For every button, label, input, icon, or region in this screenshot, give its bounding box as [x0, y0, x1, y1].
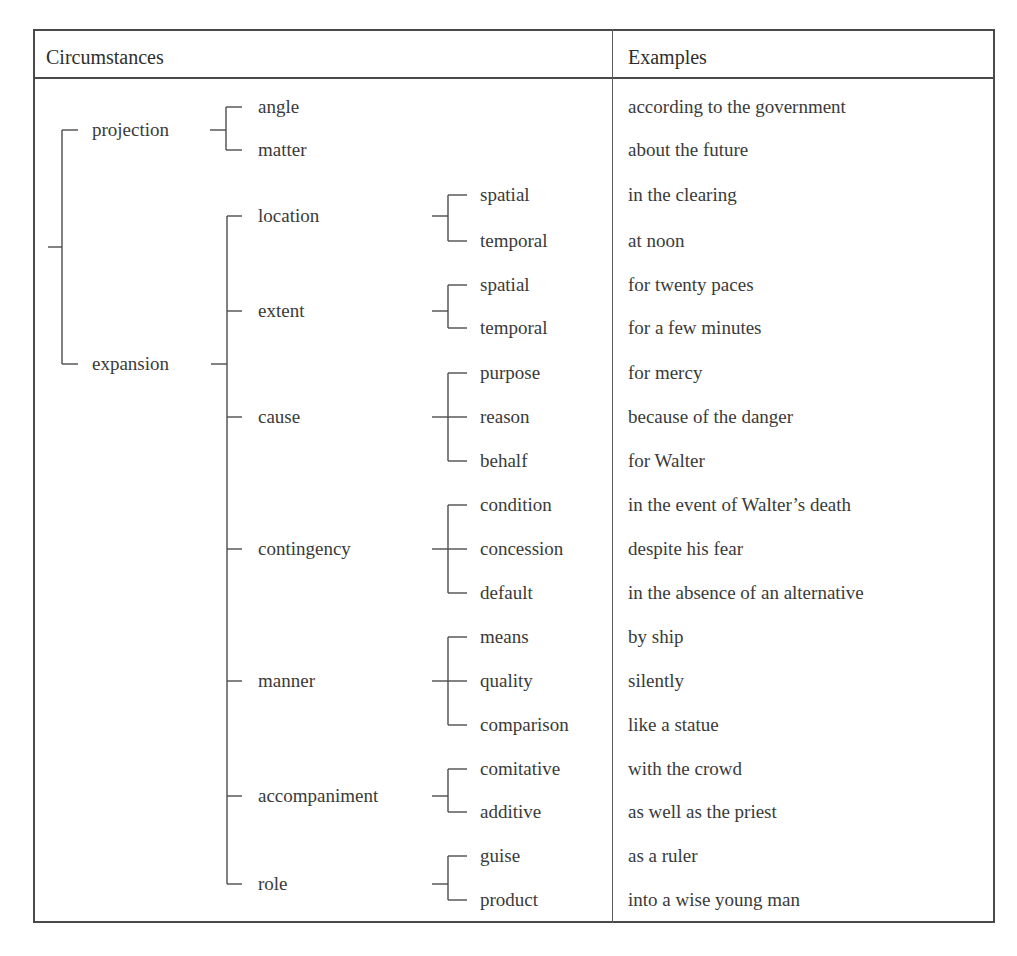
node-projection: projection: [92, 119, 169, 141]
node-contingency: contingency: [258, 538, 351, 560]
example-comparison: like a statue: [628, 714, 719, 736]
subnode-concession: concession: [480, 538, 563, 560]
example-quality: silently: [628, 670, 684, 692]
node-matter: matter: [258, 139, 307, 161]
node-accompaniment: accompaniment: [258, 785, 378, 807]
subnode-guise: guise: [480, 845, 520, 867]
example-concession: despite his fear: [628, 538, 743, 560]
subnode-comparison: comparison: [480, 714, 569, 736]
node-cause: cause: [258, 406, 300, 428]
example-spatial: for twenty paces: [628, 274, 754, 296]
node-manner: manner: [258, 670, 315, 692]
subnode-temporal: temporal: [480, 317, 548, 339]
example-angle: according to the government: [628, 96, 846, 118]
subnode-spatial: spatial: [480, 274, 530, 296]
subnode-temporal: temporal: [480, 230, 548, 252]
example-purpose: for mercy: [628, 362, 702, 384]
subnode-behalf: behalf: [480, 450, 527, 472]
example-default: in the absence of an alternative: [628, 582, 864, 604]
subnode-comitative: comitative: [480, 758, 560, 780]
node-location: location: [258, 205, 319, 227]
subnode-condition: condition: [480, 494, 552, 516]
example-additive: as well as the priest: [628, 801, 777, 823]
example-temporal: for a few minutes: [628, 317, 761, 339]
example-comitative: with the crowd: [628, 758, 742, 780]
subnode-additive: additive: [480, 801, 541, 823]
subnode-spatial: spatial: [480, 184, 530, 206]
example-product: into a wise young man: [628, 889, 800, 911]
example-matter: about the future: [628, 139, 748, 161]
example-spatial: in the clearing: [628, 184, 737, 206]
example-reason: because of the danger: [628, 406, 793, 428]
node-angle: angle: [258, 96, 299, 118]
example-condition: in the event of Walter’s death: [628, 494, 851, 516]
subnode-means: means: [480, 626, 529, 648]
example-guise: as a ruler: [628, 845, 698, 867]
node-expansion: expansion: [92, 353, 169, 375]
node-extent: extent: [258, 300, 304, 322]
example-temporal: at noon: [628, 230, 684, 252]
example-means: by ship: [628, 626, 683, 648]
subnode-quality: quality: [480, 670, 533, 692]
subnode-reason: reason: [480, 406, 530, 428]
subnode-product: product: [480, 889, 538, 911]
example-behalf: for Walter: [628, 450, 705, 472]
subnode-purpose: purpose: [480, 362, 540, 384]
subnode-default: default: [480, 582, 533, 604]
node-role: role: [258, 873, 288, 895]
